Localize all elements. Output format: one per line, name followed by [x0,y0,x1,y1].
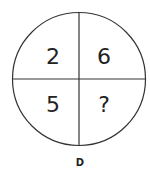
cell-bottom-right-unknown: ? [89,93,119,117]
option-label: D [70,157,90,168]
circle-diagram [0,0,150,179]
cell-bottom-left: 5 [38,93,68,117]
number-circle-puzzle: 2 6 5 ? D [0,0,150,179]
cell-top-left: 2 [38,45,68,69]
cell-top-right: 6 [89,45,119,69]
